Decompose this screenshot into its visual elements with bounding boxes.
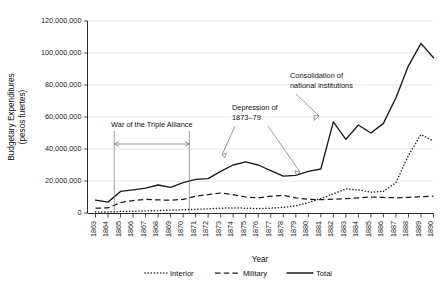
y-tick-label: 60,000,000 — [45, 112, 82, 121]
consolidation-annotation-label-line2: national institutions — [290, 81, 353, 90]
chart-figure: 020,000,00040,000,00060,000,00080,000,00… — [0, 0, 442, 284]
series-line-military — [96, 193, 434, 208]
x-tick-label: 1886 — [376, 221, 385, 237]
x-tick-label: 1875 — [239, 221, 248, 237]
legend-label-interior: Interior — [170, 269, 194, 278]
depression-annotation-label-line1: Depression of — [232, 103, 279, 112]
x-tick-label: 1870 — [176, 221, 185, 237]
consolidation-arrow — [296, 94, 319, 116]
x-tick-label: 1889 — [414, 221, 423, 237]
legend-label-total: Total — [316, 269, 332, 278]
x-tick-label: 1876 — [251, 221, 260, 237]
x-tick-label: 1869 — [164, 221, 173, 237]
x-tick-label: 1873 — [214, 221, 223, 237]
gridlines — [88, 21, 434, 181]
y-tick-label: 20,000,000 — [45, 176, 82, 185]
x-axis-title: Year — [252, 255, 269, 264]
x-tick-label: 1872 — [201, 221, 210, 237]
x-tick-label: 1871 — [189, 221, 198, 237]
y-axis-tick-labels: 020,000,00040,000,00060,000,00080,000,00… — [41, 16, 82, 217]
x-tick-label: 1887 — [389, 221, 398, 237]
x-tick-label: 1882 — [326, 221, 335, 237]
x-tick-label: 1885 — [364, 221, 373, 237]
series-line-interior — [96, 135, 434, 212]
expenditures-line-chart: 020,000,00040,000,00060,000,00080,000,00… — [0, 0, 442, 284]
x-tick-label: 1868 — [151, 221, 160, 237]
depression-arrow-left — [222, 126, 235, 155]
war-span-arrow — [114, 142, 189, 147]
y-axis-title-line2: (pesos fuertes) — [18, 89, 27, 144]
x-tick-label: 1867 — [139, 221, 148, 237]
x-tick-label: 1888 — [401, 221, 410, 237]
legend-item-total: Total — [287, 269, 332, 278]
y-axis-title-line1: Budgetary Expenditures — [7, 73, 16, 160]
annotation-consolidation: Consolidation of national institutions — [290, 71, 353, 120]
chart-legend: Interior Military Total — [145, 269, 332, 278]
x-tick-label: 1880 — [301, 221, 310, 237]
x-tick-label: 1890 — [426, 221, 435, 237]
x-axis-tick-labels: 1863186418651866186718681869187018711872… — [89, 221, 436, 237]
x-tick-label: 1878 — [276, 221, 285, 237]
y-tick-label: 0 — [77, 208, 81, 217]
consolidation-arrow-head — [314, 116, 319, 121]
depression-annotation-label-line2: 1873–79 — [232, 113, 261, 122]
consolidation-annotation-label-line1: Consolidation of — [290, 71, 344, 80]
y-tick-label: 80,000,000 — [45, 80, 82, 89]
x-tick-label: 1865 — [114, 221, 123, 237]
x-tick-label: 1877 — [264, 221, 273, 237]
y-tick-label: 40,000,000 — [45, 144, 82, 153]
x-tick-label: 1874 — [226, 221, 235, 237]
war-annotation-label: War of the Triple Alliance — [111, 120, 192, 129]
x-tick-label: 1881 — [314, 221, 323, 237]
x-tick-label: 1884 — [351, 221, 360, 237]
y-axis-ticks — [84, 21, 88, 213]
legend-item-interior: Interior — [145, 269, 194, 278]
x-tick-label: 1866 — [126, 221, 135, 237]
x-tick-label: 1883 — [339, 221, 348, 237]
x-tick-label: 1863 — [89, 221, 98, 237]
x-tick-label: 1879 — [289, 221, 298, 237]
x-tick-label: 1864 — [101, 221, 110, 237]
y-tick-label: 100,000,000 — [41, 48, 82, 57]
y-tick-label: 120,000,000 — [41, 16, 82, 25]
legend-item-military: Military — [215, 269, 267, 278]
legend-label-military: Military — [243, 269, 267, 278]
